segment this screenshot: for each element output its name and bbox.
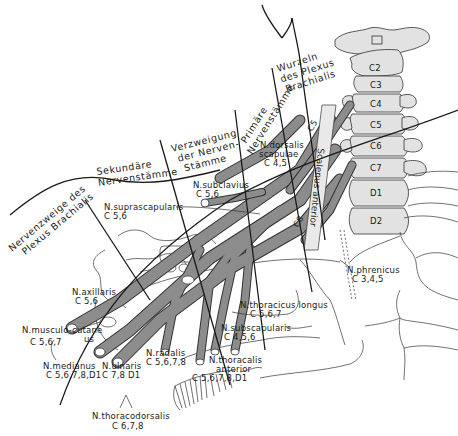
nerve-thoracodorsalis-label: N.thoracodorsalis C 6,7,8 [92,411,173,431]
brachial-plexus-diagram: C2 C3 C4 C5 C6 C7 D1 D2 [0,0,458,436]
vertebra-d2: D2 [370,216,382,226]
cervical-spine: C2 C3 C4 C5 C6 C7 D1 D2 [335,27,430,234]
vertebra-c2: C2 [369,63,381,73]
nerve-radialis-label: N.radalis C 5,6,7,8 [146,348,188,367]
nerve-musculocutaneus-segments: C 5,6,7 [30,337,62,347]
nerve-medianus-label: N.medianus C 5,6,7,8,D1 [43,361,101,380]
vertebra-c4: C4 [370,99,382,109]
nerve-ulnaris-label: N.ulnaris C 7,8 D1 [102,361,144,380]
vertebra-c6: C6 [370,141,382,151]
vertebra-c7: C7 [370,163,382,173]
vertebra-c3: C3 [370,80,382,90]
nerve-thoracicus-longus-label: N.thoracicus longus C 5,6,7 [240,300,331,319]
zone-nervenzweige-label: Nervenzweige des Plexus Brachialis [6,180,97,261]
nerve-phrenicus-label: N.phrenicus C 3,4,5 [347,265,403,284]
vertebra-c5: C5 [370,120,382,130]
nerve-subscapularis-label: N.subscapularis C 4,5,6 [221,323,294,342]
vertebra-d1: D1 [370,188,382,198]
nerve-suprascapularis-label: N.suprascapularis C 5,6 [104,202,186,221]
